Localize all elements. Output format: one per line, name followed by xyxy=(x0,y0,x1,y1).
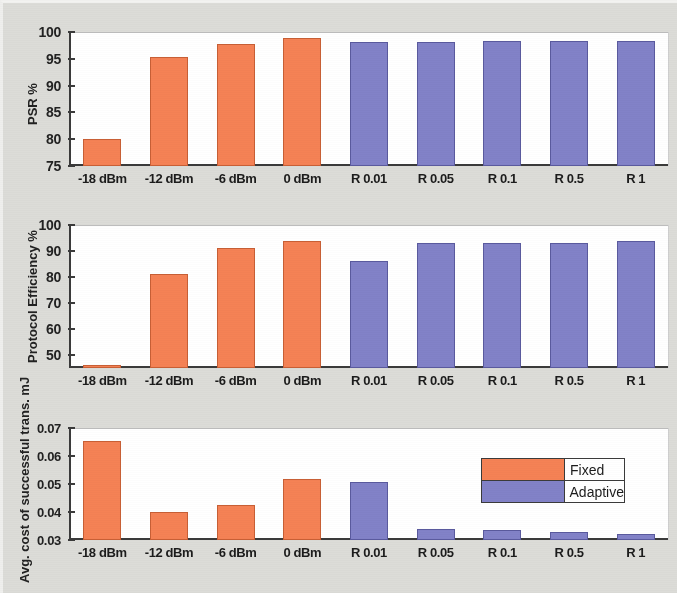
bar-1-adaptive-7 xyxy=(550,41,588,166)
y-tick-label-1-1: 80 xyxy=(46,131,61,147)
bar-1-fixed-3 xyxy=(283,38,321,166)
x-tick-label-2-5: R 0.05 xyxy=(418,373,454,388)
y-tick-2-1 xyxy=(68,328,75,330)
bar-2-adaptive-7 xyxy=(550,243,588,368)
bar-3-fixed-3 xyxy=(283,479,321,540)
y-tick-label-3-1: 0.04 xyxy=(37,505,61,520)
bar-3-adaptive-7 xyxy=(550,532,588,540)
bar-3-adaptive-5 xyxy=(417,529,455,540)
bar-1-fixed-0 xyxy=(83,139,121,166)
x-tick-label-1-6: R 0.1 xyxy=(488,171,517,186)
x-tick-label-2-7: R 0.5 xyxy=(554,373,583,388)
y-tick-1-5 xyxy=(68,31,75,33)
y-tick-2-5 xyxy=(68,224,75,226)
x-tick-label-3-3: 0 dBm xyxy=(283,545,321,560)
y-tick-label-2-4: 90 xyxy=(46,243,61,259)
x-tick-label-1-8: R 1 xyxy=(626,171,645,186)
legend-label-adaptive: Adaptive xyxy=(564,481,624,502)
x-tick-label-3-2: -6 dBm xyxy=(215,545,257,560)
bar-2-fixed-2 xyxy=(217,248,255,368)
y-tick-label-3-3: 0.06 xyxy=(37,449,61,464)
legend-swatch-adaptive-icon xyxy=(482,481,564,502)
legend: Fixed Adaptive xyxy=(481,458,625,503)
legend-swatch-fixed-icon xyxy=(482,459,564,480)
y-tick-2-2 xyxy=(68,302,75,304)
y-tick-1-2 xyxy=(68,111,75,113)
x-tick-label-2-6: R 0.1 xyxy=(488,373,517,388)
y-tick-label-1-0: 75 xyxy=(46,158,61,174)
plot-top-border-3 xyxy=(69,428,669,429)
y-axis-label-3: Avg. cost of successful trans. mJ xyxy=(17,377,32,583)
plot-right-border-2 xyxy=(668,225,669,368)
bar-2-fixed-1 xyxy=(150,274,188,368)
bar-3-adaptive-4 xyxy=(350,482,388,540)
x-tick-label-3-7: R 0.5 xyxy=(554,545,583,560)
x-tick-label-1-7: R 0.5 xyxy=(554,171,583,186)
x-tick-label-1-2: -6 dBm xyxy=(215,171,257,186)
y-tick-label-1-2: 85 xyxy=(46,104,61,120)
y-tick-label-3-4: 0.07 xyxy=(37,421,61,436)
plot-right-border-1 xyxy=(668,32,669,166)
y-tick-2-0 xyxy=(68,354,75,356)
y-tick-label-3-0: 0.03 xyxy=(37,533,61,548)
legend-item-adaptive: Adaptive xyxy=(482,480,624,502)
y-tick-3-2 xyxy=(68,483,75,485)
x-tick-label-1-4: R 0.01 xyxy=(351,171,387,186)
bar-2-fixed-0 xyxy=(83,365,121,368)
y-tick-3-0 xyxy=(68,539,75,541)
y-tick-1-3 xyxy=(68,85,75,87)
y-tick-label-1-4: 95 xyxy=(46,51,61,67)
x-tick-label-2-8: R 1 xyxy=(626,373,645,388)
x-tick-label-1-0: -18 dBm xyxy=(78,171,127,186)
x-tick-label-3-1: -12 dBm xyxy=(145,545,194,560)
legend-item-fixed: Fixed xyxy=(482,459,624,480)
bar-3-fixed-0 xyxy=(83,441,121,540)
y-tick-2-4 xyxy=(68,250,75,252)
legend-label-fixed: Fixed xyxy=(564,459,624,480)
plot-right-border-3 xyxy=(668,428,669,540)
bar-2-adaptive-6 xyxy=(483,243,521,368)
bar-1-adaptive-8 xyxy=(617,41,655,166)
y-axis-label-1: PSR % xyxy=(25,83,40,125)
x-tick-label-3-4: R 0.01 xyxy=(351,545,387,560)
y-tick-3-4 xyxy=(68,427,75,429)
x-tick-label-1-5: R 0.05 xyxy=(418,171,454,186)
x-tick-label-2-0: -18 dBm xyxy=(78,373,127,388)
y-tick-2-3 xyxy=(68,276,75,278)
y-tick-1-0 xyxy=(68,165,75,167)
x-tick-label-1-3: 0 dBm xyxy=(283,171,321,186)
bar-2-adaptive-5 xyxy=(417,243,455,368)
bar-1-adaptive-5 xyxy=(417,42,455,166)
y-tick-label-2-1: 60 xyxy=(46,321,61,337)
x-tick-label-2-2: -6 dBm xyxy=(215,373,257,388)
bar-1-fixed-2 xyxy=(217,44,255,166)
y-axis-label-2: Protocol Efficiency % xyxy=(25,230,40,363)
x-tick-label-3-6: R 0.1 xyxy=(488,545,517,560)
y-tick-1-1 xyxy=(68,138,75,140)
plot-top-border-2 xyxy=(69,225,669,226)
bar-1-adaptive-4 xyxy=(350,42,388,166)
bar-3-fixed-2 xyxy=(217,505,255,540)
x-tick-label-3-8: R 1 xyxy=(626,545,645,560)
plot-top-border-1 xyxy=(69,32,669,33)
figure-canvas: 7580859095100 PSR % -18 dBm-12 dBm-6 dBm… xyxy=(0,0,677,593)
bar-2-adaptive-4 xyxy=(350,261,388,368)
y-tick-label-2-5: 100 xyxy=(39,217,61,233)
bar-2-fixed-3 xyxy=(283,241,321,368)
bar-3-adaptive-6 xyxy=(483,530,521,540)
x-tick-label-2-1: -12 dBm xyxy=(145,373,194,388)
x-tick-label-3-5: R 0.05 xyxy=(418,545,454,560)
bar-3-fixed-1 xyxy=(150,512,188,540)
bar-1-fixed-1 xyxy=(150,57,188,166)
x-tick-label-3-0: -18 dBm xyxy=(78,545,127,560)
y-tick-label-2-3: 80 xyxy=(46,269,61,285)
y-tick-label-1-5: 100 xyxy=(39,24,61,40)
x-tick-label-2-4: R 0.01 xyxy=(351,373,387,388)
y-tick-label-2-0: 50 xyxy=(46,347,61,363)
bar-2-adaptive-8 xyxy=(617,241,655,368)
y-tick-label-3-2: 0.05 xyxy=(37,477,61,492)
y-tick-3-1 xyxy=(68,511,75,513)
x-tick-label-2-3: 0 dBm xyxy=(283,373,321,388)
y-tick-3-3 xyxy=(68,455,75,457)
x-tick-label-1-1: -12 dBm xyxy=(145,171,194,186)
